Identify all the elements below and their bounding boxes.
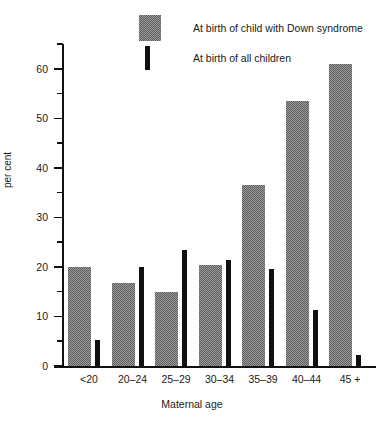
bar-group (286, 44, 328, 366)
bar-group (242, 44, 284, 366)
y-tick-label: 60 (10, 64, 48, 75)
plot-area (64, 44, 376, 366)
y-tick-major (54, 68, 64, 70)
bar-down-syndrome (242, 185, 265, 366)
y-tick-minor (57, 192, 63, 194)
y-tick-major (54, 118, 64, 120)
bar-group (329, 44, 371, 366)
x-axis-line (54, 366, 376, 368)
bar-all-children (356, 355, 361, 366)
bar-group (199, 44, 241, 366)
bar-all-children (182, 250, 187, 366)
y-tick-minor (57, 142, 63, 144)
bar-down-syndrome (199, 265, 222, 366)
y-tick-minor (57, 43, 63, 45)
bar-down-syndrome (286, 101, 309, 366)
bar-group (68, 44, 110, 366)
y-tick-label: 0 (10, 361, 48, 372)
y-tick-major (54, 316, 64, 318)
y-tick-label: 50 (10, 113, 48, 124)
bar-down-syndrome (329, 64, 352, 366)
legend-label-down-syndrome: At birth of child with Down syndrome (193, 23, 363, 34)
y-tick-major (54, 217, 64, 219)
bar-all-children (139, 267, 144, 366)
y-tick-major (54, 365, 64, 367)
y-tick-major (54, 167, 64, 169)
bar-all-children (95, 340, 100, 366)
bar-all-children (313, 310, 318, 366)
x-axis-title: Maternal age (0, 398, 384, 410)
y-tick-minor (57, 93, 63, 95)
y-tick-minor (57, 291, 63, 293)
bar-down-syndrome (112, 283, 135, 366)
bar-group (155, 44, 197, 366)
bar-group (112, 44, 154, 366)
y-tick-minor (57, 241, 63, 243)
bar-down-syndrome (68, 267, 91, 366)
y-tick-label: 10 (10, 311, 48, 322)
y-tick-minor (57, 340, 63, 342)
bar-all-children (269, 269, 274, 366)
gray-hatch-swatch (139, 15, 189, 41)
legend-item-down-syndrome: At birth of child with Down syndrome (139, 14, 363, 42)
bar-down-syndrome (155, 292, 178, 366)
x-tick-label: 45 + (323, 374, 377, 385)
y-tick-major (54, 266, 64, 268)
bar-all-children (226, 260, 231, 366)
bar-chart: At birth of child with Down syndrome At … (0, 0, 384, 424)
y-tick-label: 40 (10, 163, 48, 174)
y-tick-label: 30 (10, 212, 48, 223)
y-tick-label: 20 (10, 262, 48, 273)
